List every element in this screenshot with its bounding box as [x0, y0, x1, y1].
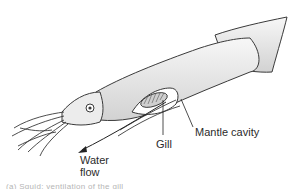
water-flow-label-line1: Water — [80, 154, 109, 166]
squid-illustration — [0, 0, 297, 189]
figure-caption: (a) Squid: ventilation of the gill — [6, 182, 123, 189]
squid-diagram: Water flow Gill Mantle cavity (a) Squid:… — [0, 0, 297, 189]
mantle-cavity-leader-line — [181, 99, 193, 127]
gill-label: Gill — [156, 138, 172, 150]
water-flow-label: Water flow — [80, 154, 109, 178]
squid-mantle — [96, 38, 259, 121]
squid-head — [62, 92, 103, 125]
squid-tentacles — [12, 112, 68, 156]
mantle-cavity-label: Mantle cavity — [195, 126, 259, 138]
water-flow-label-line2: flow — [80, 166, 109, 178]
